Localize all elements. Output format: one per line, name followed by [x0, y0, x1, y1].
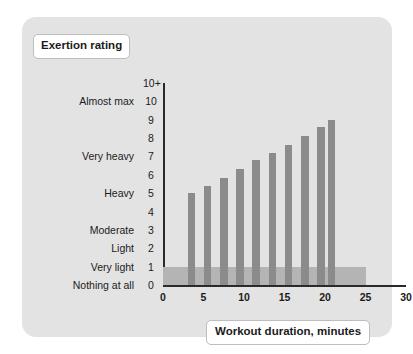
x-axis-tick-label: 10	[232, 291, 256, 303]
x-axis-tick-label: 15	[273, 291, 297, 303]
bar	[236, 169, 244, 285]
bar	[285, 145, 293, 285]
y-axis-tick-label: 0	[143, 279, 159, 291]
bar	[269, 153, 277, 285]
y-axis-title-box: Exertion rating	[33, 34, 130, 59]
y-axis-tick-description: Very light	[91, 261, 134, 273]
bar	[220, 178, 228, 285]
y-axis-tick-label: 10+	[143, 77, 159, 89]
x-axis-tick-label: 0	[151, 291, 175, 303]
y-axis-tick-description: Almost max	[79, 95, 134, 107]
y-axis-tick-description: Very heavy	[82, 150, 134, 162]
bar	[328, 120, 336, 285]
y-axis-tick-label: 4	[143, 206, 159, 218]
y-axis-tick-label: 5	[143, 187, 159, 199]
bar	[301, 136, 309, 285]
x-axis-tick-label: 5	[192, 291, 216, 303]
y-axis-tick-description: Light	[111, 242, 134, 254]
y-axis-tick-description: Heavy	[104, 187, 134, 199]
x-axis-tick-label: 30	[394, 291, 413, 303]
chart-card: Exertion rating Workout duration, minute…	[22, 17, 392, 337]
y-axis-tick-description: Moderate	[90, 224, 134, 236]
y-axis-tick-label: 7	[143, 150, 159, 162]
x-axis-tick-label: 25	[354, 291, 378, 303]
y-axis-tick-label: 3	[143, 224, 159, 236]
y-axis-tick-label: 1	[143, 261, 159, 273]
x-axis-line	[163, 285, 406, 287]
bar	[252, 160, 260, 285]
x-axis-tick-label: 20	[313, 291, 337, 303]
y-axis-tick-label: 9	[143, 114, 159, 126]
bar	[317, 127, 325, 285]
y-axis-tick-label: 8	[143, 132, 159, 144]
y-axis-tick-label: 6	[143, 169, 159, 181]
bar	[188, 193, 196, 285]
y-axis-tick-description: Nothing at all	[73, 279, 134, 291]
x-axis-title-box: Workout duration, minutes	[206, 320, 370, 345]
y-axis-tick-label: 10	[143, 95, 159, 107]
bar	[204, 186, 212, 285]
y-axis-tick-label: 2	[143, 242, 159, 254]
